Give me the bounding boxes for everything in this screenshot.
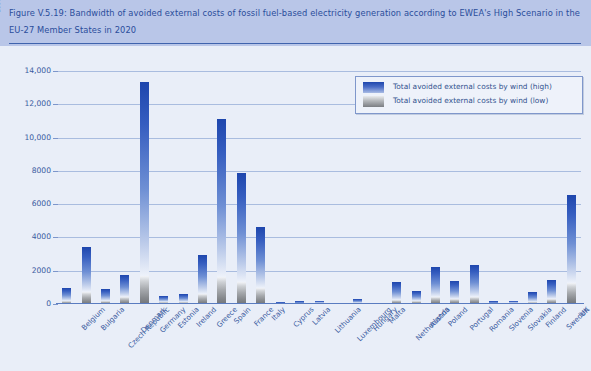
y-axis-tick-label: 10,000 (5, 133, 51, 142)
y-axis-tick-mark (53, 104, 58, 105)
legend-swatch-low-icon (363, 96, 384, 107)
bar-segment-high (431, 267, 440, 297)
y-axis-tick-mark (53, 204, 58, 205)
bar-segment-high (567, 195, 576, 283)
figure-caption-text: Figure V.5.19: Bandwidth of avoided exte… (9, 5, 581, 39)
bar-segment-low (140, 276, 149, 304)
bar-segment-high (120, 275, 129, 297)
y-axis-tick-label: 6000 (5, 199, 51, 208)
bar-netherlands (392, 282, 401, 304)
bar-segment-high (450, 281, 459, 300)
legend-swatch-high-icon (363, 82, 384, 93)
x-axis-label-lithuania: Lithuania (333, 305, 363, 335)
caption-divider (9, 43, 581, 44)
gridline (57, 237, 581, 238)
bar-segment-high (217, 119, 226, 277)
bar-greece (198, 255, 207, 304)
x-axis-label-poland: Poland (446, 305, 469, 328)
bar-segment-low (237, 282, 246, 304)
y-axis-tick-mark (53, 171, 58, 172)
bar-sweden (547, 280, 556, 304)
bar-segment-high (392, 282, 401, 299)
y-axis-tick-label: 8000 (5, 166, 51, 175)
bar-segment-high (412, 291, 421, 302)
bar-segment-high (198, 255, 207, 294)
y-axis-tick-mark (53, 237, 58, 238)
bar-segment-high (547, 280, 556, 299)
bar-segment-high (62, 288, 71, 300)
bar-segment-high (82, 247, 91, 292)
bar-spain (217, 119, 226, 304)
bar-segment-low (256, 288, 265, 304)
y-axis-tick-mark (53, 71, 58, 72)
figure-page: Figure V.5.19: Bandwidth of avoided exte… (0, 0, 591, 371)
y-axis-tick-label: 4000 (5, 232, 51, 241)
gridline (57, 138, 581, 139)
bar-italy (256, 227, 265, 304)
bar-segment-high (179, 294, 188, 302)
bar-segment-high (140, 82, 149, 276)
bar-portugal (450, 281, 459, 304)
y-axis-tick-label: 12,000 (5, 99, 51, 108)
y-axis-title: Avoided external costs (€2007m/yr) (0, 0, 1, 125)
bar-bulgaria (82, 247, 91, 304)
gridline (57, 204, 581, 205)
bar-segment-high (237, 173, 246, 282)
y-axis-tick-label: 2000 (5, 266, 51, 275)
bar-segment-high (101, 289, 110, 301)
legend-label-low: Total avoided external costs by wind (lo… (393, 96, 548, 105)
bar-romania (470, 265, 479, 304)
y-axis-title-sub: 2007 (0, 0, 1, 13)
gridline (57, 171, 581, 172)
bar-segment-low (217, 277, 226, 304)
bar-germany (140, 82, 149, 304)
bar-france (237, 173, 246, 304)
bar-uk (567, 195, 576, 304)
x-axis-labels: BelgiumBulgariaCzech RepublicDenmarkGerm… (57, 305, 581, 371)
y-axis-tick-mark (53, 138, 58, 139)
bar-segment-high (470, 265, 479, 297)
y-axis-tick-label: 14,000 (5, 66, 51, 75)
bar-segment-high (159, 296, 168, 303)
y-axis-tick-label: 0 (5, 299, 51, 308)
y-axis-tick-mark (53, 271, 58, 272)
gridline (57, 271, 581, 272)
bar-segment-low (567, 283, 576, 304)
bar-segment-high (528, 292, 537, 301)
bar-poland (431, 267, 440, 304)
figure-caption-band: Figure V.5.19: Bandwidth of avoided exte… (0, 0, 591, 46)
bar-austria (412, 291, 421, 304)
legend-label-high: Total avoided external costs by wind (hi… (393, 82, 552, 91)
bar-belgium (62, 288, 71, 304)
bar-czech-republic (101, 289, 110, 304)
gridline (57, 71, 581, 72)
bar-denmark (120, 275, 129, 304)
bar-segment-high (256, 227, 265, 289)
chart-legend: Total avoided external costs by wind (hi… (355, 76, 583, 114)
